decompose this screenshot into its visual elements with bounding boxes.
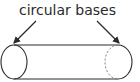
right-base-visible-arc	[118, 45, 132, 79]
left-base-ellipse	[1, 45, 27, 79]
right-arrow	[97, 21, 119, 43]
circular-bases-label: circular bases	[19, 2, 116, 18]
right-base-hidden-arc	[105, 45, 118, 79]
left-arrow	[14, 21, 36, 43]
cylinder-diagram: circular bases	[0, 0, 140, 82]
